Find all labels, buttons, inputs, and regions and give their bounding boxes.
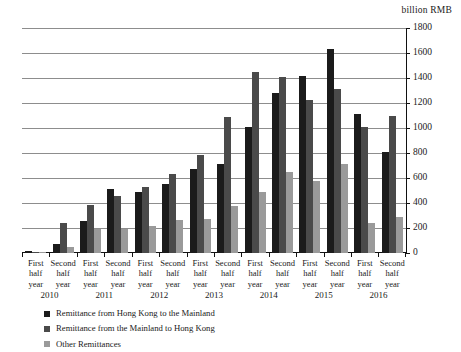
- bar: [272, 93, 279, 253]
- bar: [142, 187, 149, 253]
- bar: [94, 229, 101, 253]
- category-label: Secondhalfyear: [269, 258, 296, 289]
- bar: [121, 229, 128, 253]
- category-label: Secondhalfyear: [104, 258, 131, 289]
- bar-group: [132, 28, 159, 253]
- legend-item: Remittance from the Mainland to Hong Kon…: [44, 321, 215, 336]
- category-label-line: half: [132, 268, 159, 278]
- y-axis-label: 600: [413, 173, 427, 183]
- bar-group: [351, 28, 378, 253]
- category-label: Secondhalfyear: [324, 258, 351, 289]
- bar: [204, 219, 211, 253]
- bar-group: [324, 28, 351, 253]
- y-axis-tick: [406, 228, 410, 229]
- bar: [361, 127, 368, 253]
- category-label-line: Second: [214, 258, 241, 268]
- bar-group: [214, 28, 241, 253]
- bar: [259, 192, 266, 253]
- y-axis-tick: [406, 178, 410, 179]
- plot-area: [22, 28, 406, 253]
- bar-chart: billion RMB 0200400600800100012001400160…: [0, 0, 461, 352]
- category-label-line: First: [77, 258, 104, 268]
- y-axis-label: 1000: [413, 123, 432, 133]
- y-axis-tick: [406, 253, 410, 254]
- bar: [327, 49, 334, 253]
- legend-item: Remittance from Hong Kong to the Mainlan…: [44, 306, 215, 321]
- bar-group: [22, 28, 49, 253]
- y-axis-label: 400: [413, 198, 427, 208]
- bar: [286, 172, 293, 253]
- bar: [217, 164, 224, 253]
- category-label-line: half: [22, 268, 49, 278]
- bar: [197, 155, 204, 253]
- bar: [245, 127, 252, 253]
- category-label-line: year: [159, 279, 186, 289]
- bar: [176, 220, 183, 253]
- bar-group: [296, 28, 323, 253]
- bar: [299, 76, 306, 253]
- bar-group: [187, 28, 214, 253]
- bar: [135, 192, 142, 253]
- year-label: 2014: [241, 290, 296, 300]
- category-label-line: First: [351, 258, 378, 268]
- category-label-line: year: [378, 279, 405, 289]
- bar: [354, 114, 361, 253]
- category-label-line: half: [296, 268, 323, 278]
- bar: [279, 77, 286, 253]
- year-label: 2013: [187, 290, 242, 300]
- category-label-line: half: [241, 268, 268, 278]
- category-label: Firsthalfyear: [351, 258, 378, 289]
- category-label-line: year: [132, 279, 159, 289]
- bar: [80, 221, 87, 254]
- bar: [368, 223, 375, 253]
- bar: [107, 189, 114, 253]
- legend-item: Other Remittances: [44, 337, 215, 352]
- y-axis-label: 1400: [413, 73, 432, 83]
- category-label-line: half: [159, 268, 186, 278]
- legend-swatch: [44, 311, 50, 317]
- category-label-line: First: [132, 258, 159, 268]
- category-label-line: First: [22, 258, 49, 268]
- bar: [382, 152, 389, 253]
- bar-groups: [22, 28, 406, 253]
- bar-group: [241, 28, 268, 253]
- bar: [306, 100, 313, 253]
- bar: [396, 217, 403, 253]
- category-label: Firsthalfyear: [296, 258, 323, 289]
- year-label: 2011: [77, 290, 132, 300]
- bar: [190, 169, 197, 253]
- year-label: 2010: [22, 290, 77, 300]
- bar: [162, 184, 169, 253]
- category-label-line: year: [324, 279, 351, 289]
- category-label-line: half: [214, 268, 241, 278]
- unit-label: billion RMB: [401, 5, 452, 15]
- legend-swatch: [44, 326, 50, 332]
- legend-label: Remittance from Hong Kong to the Mainlan…: [56, 306, 215, 321]
- category-label-line: half: [351, 268, 378, 278]
- bar-group: [77, 28, 104, 253]
- bar: [87, 205, 94, 253]
- legend: Remittance from Hong Kong to the Mainlan…: [44, 306, 215, 352]
- category-label-line: year: [49, 279, 76, 289]
- category-label-line: year: [296, 279, 323, 289]
- category-label: Secondhalfyear: [214, 258, 241, 289]
- legend-swatch: [44, 341, 50, 347]
- category-label-line: year: [241, 279, 268, 289]
- category-label-line: Second: [159, 258, 186, 268]
- y-axis-tick: [406, 203, 410, 204]
- category-label-line: half: [187, 268, 214, 278]
- bar: [334, 89, 341, 253]
- category-label: Secondhalfyear: [378, 258, 405, 289]
- y-axis-label: 1200: [413, 98, 432, 108]
- y-axis-label: 800: [413, 148, 427, 158]
- category-label-line: Second: [49, 258, 76, 268]
- bar: [60, 223, 67, 253]
- x-axis-category-labels: FirsthalfyearSecondhalfyearFirsthalfyear…: [22, 258, 406, 289]
- category-label-line: year: [269, 279, 296, 289]
- y-axis-label: 1600: [413, 48, 432, 58]
- bar-group: [104, 28, 131, 253]
- bar: [114, 196, 121, 253]
- y-axis-label: 200: [413, 223, 427, 233]
- category-label-line: half: [324, 268, 351, 278]
- category-label-line: Second: [324, 258, 351, 268]
